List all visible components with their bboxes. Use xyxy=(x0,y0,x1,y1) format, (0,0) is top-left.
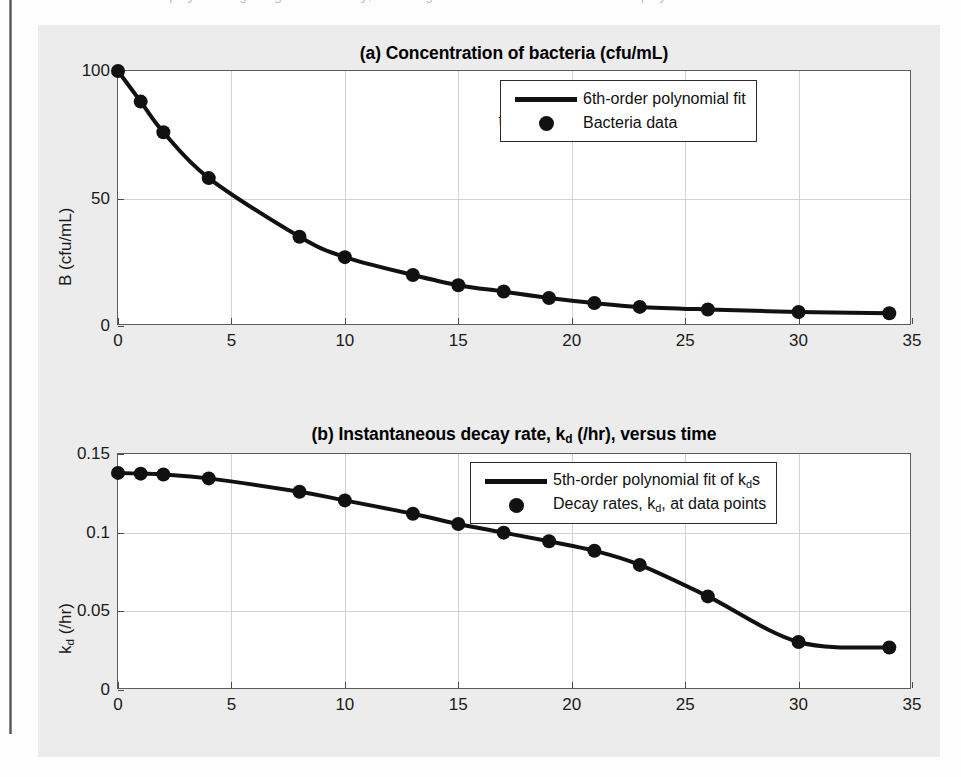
x-tick-label: 25 xyxy=(676,695,695,715)
chart-b-legend[interactable]: 5th-order polynomial fit of kds Decay ra… xyxy=(470,462,777,524)
dot-marker-icon xyxy=(509,116,583,131)
tick-mark-y xyxy=(118,690,124,691)
x-tick-label: 15 xyxy=(449,695,468,715)
x-tick-label: 5 xyxy=(227,331,236,351)
data-point-marker[interactable] xyxy=(701,302,715,316)
chart-b-ylabel-subscript: d xyxy=(64,639,76,645)
legend-label-fit: 5th-order polynomial fit of kds xyxy=(553,471,760,490)
chart-b-title-part2: (/hr), versus time xyxy=(572,424,716,444)
x-tick-label: 20 xyxy=(562,695,581,715)
legend-entry-data[interactable]: Decay rates, kd, at data points xyxy=(479,493,766,517)
line-swatch-icon xyxy=(509,97,583,102)
data-point-marker[interactable] xyxy=(292,485,306,499)
data-point-marker[interactable] xyxy=(497,526,511,540)
chart-a-ylabel: B (cfu/mL) xyxy=(56,208,76,286)
y-tick-label: 0.05 xyxy=(77,601,110,621)
data-point-marker[interactable] xyxy=(202,171,216,185)
data-point-marker[interactable] xyxy=(701,589,715,603)
y-tick-label: 0.1 xyxy=(86,523,110,543)
x-tick-label: 30 xyxy=(789,331,808,351)
legend-label-data: Bacteria data xyxy=(583,114,677,132)
y-tick-label: 0 xyxy=(101,316,110,336)
data-point-marker[interactable] xyxy=(587,296,601,310)
chart-b-axes: (b) Instantaneous decay rate, kd (/hr), … xyxy=(117,453,911,689)
data-point-marker[interactable] xyxy=(134,467,148,481)
data-point-marker[interactable] xyxy=(882,306,896,320)
x-tick-label: 10 xyxy=(335,695,354,715)
x-tick-label: 10 xyxy=(335,331,354,351)
x-tick-label: 35 xyxy=(903,331,922,351)
chart-b-title: (b) Instantaneous decay rate, kd (/hr), … xyxy=(118,424,910,446)
data-point-marker[interactable] xyxy=(633,558,647,572)
data-point-marker[interactable] xyxy=(111,466,125,480)
chart-b-title-part1: (b) Instantaneous decay rate, k xyxy=(312,424,566,444)
data-point-marker[interactable] xyxy=(292,230,306,244)
clipped-body-text: methods were employed using the given da… xyxy=(60,0,940,16)
tick-mark-x xyxy=(912,682,913,688)
data-point-marker[interactable] xyxy=(587,544,601,558)
legend-label-fit: 6th-order polynomial fit xyxy=(583,90,746,108)
data-point-marker[interactable] xyxy=(882,641,896,655)
data-point-marker[interactable] xyxy=(451,278,465,292)
x-tick-label: 30 xyxy=(789,695,808,715)
x-tick-label: 0 xyxy=(113,695,122,715)
data-point-marker[interactable] xyxy=(406,507,420,521)
legend-label-data-part2: , at data points xyxy=(661,495,766,512)
x-tick-label: 15 xyxy=(449,331,468,351)
dot-marker-icon xyxy=(479,498,553,513)
legend-entry-data[interactable]: Bacteria data xyxy=(509,111,746,135)
data-point-marker[interactable] xyxy=(156,467,170,481)
line-swatch-icon xyxy=(479,479,553,484)
x-tick-label: 0 xyxy=(113,331,122,351)
data-point-marker[interactable] xyxy=(111,64,125,78)
legend-label-data: Decay rates, kd, at data points xyxy=(553,495,766,514)
y-tick-label: 0 xyxy=(101,680,110,700)
data-point-marker[interactable] xyxy=(633,300,647,314)
chart-b-ylabel-part2: (/hr) xyxy=(56,603,75,639)
legend-entry-fit[interactable]: 6th-order polynomial fit xyxy=(509,87,746,111)
x-tick-label: 35 xyxy=(903,695,922,715)
data-point-marker[interactable] xyxy=(202,471,216,485)
data-point-marker[interactable] xyxy=(156,125,170,139)
x-tick-label: 25 xyxy=(676,331,695,351)
data-point-marker[interactable] xyxy=(338,493,352,507)
tick-mark-y xyxy=(118,326,124,327)
chart-b-ylabel: kd (/hr) xyxy=(56,603,76,654)
chart-a-title: (a) Concentration of bacteria (cfu/mL) xyxy=(118,43,910,64)
data-point-marker[interactable] xyxy=(338,250,352,264)
chart-a-legend[interactable]: 6th-order polynomial fit Bacteria data xyxy=(500,80,757,142)
scanned-page: methods were employed using the given da… xyxy=(0,0,961,777)
x-tick-label: 5 xyxy=(227,695,236,715)
data-point-marker[interactable] xyxy=(134,95,148,109)
chart-b-ylabel-part1: k xyxy=(56,646,75,655)
data-point-marker[interactable] xyxy=(542,534,556,548)
data-point-marker[interactable] xyxy=(451,517,465,531)
y-tick-label: 0.15 xyxy=(77,444,110,464)
figure-canvas: (a) Concentration of bacteria (cfu/mL) B… xyxy=(38,25,940,757)
page-margin-rule xyxy=(9,0,12,734)
data-point-marker[interactable] xyxy=(497,285,511,299)
tick-mark-x xyxy=(912,318,913,324)
legend-entry-fit[interactable]: 5th-order polynomial fit of kds xyxy=(479,469,766,493)
x-tick-label: 20 xyxy=(562,331,581,351)
data-point-marker[interactable] xyxy=(542,291,556,305)
clipped-body-text-line: methods were employed using the given da… xyxy=(60,0,940,1)
data-point-marker[interactable] xyxy=(406,268,420,282)
y-tick-label: 50 xyxy=(91,189,110,209)
chart-a-axes: (a) Concentration of bacteria (cfu/mL) B… xyxy=(117,70,911,325)
legend-label-fit-part2: s xyxy=(752,471,760,488)
y-tick-label: 100 xyxy=(82,61,110,81)
legend-label-data-part1: Decay rates, k xyxy=(553,495,655,512)
data-point-marker[interactable] xyxy=(792,635,806,649)
legend-label-fit-part1: 5th-order polynomial fit of k xyxy=(553,471,746,488)
data-point-marker[interactable] xyxy=(792,305,806,319)
